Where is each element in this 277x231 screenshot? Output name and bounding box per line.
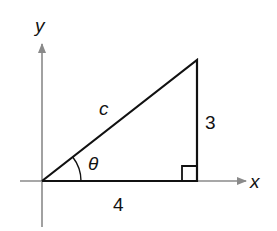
angle-theta-label: θ xyxy=(88,153,99,174)
adjacent-side-label: 4 xyxy=(113,194,124,215)
x-axis-label: x xyxy=(249,171,261,192)
opposite-side-label: 3 xyxy=(205,112,216,133)
y-axis-label: y xyxy=(33,15,46,36)
right-triangle-diagram: y x c 3 4 θ xyxy=(0,0,277,231)
hypotenuse-label: c xyxy=(99,98,109,119)
right-angle-marker xyxy=(182,166,197,181)
angle-arc xyxy=(73,157,81,181)
triangle xyxy=(42,60,197,181)
